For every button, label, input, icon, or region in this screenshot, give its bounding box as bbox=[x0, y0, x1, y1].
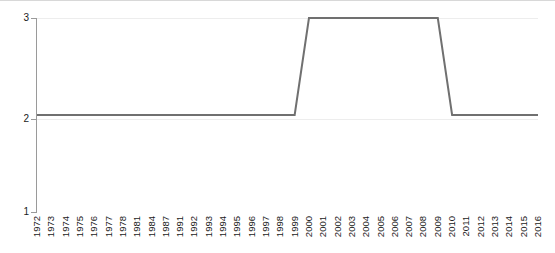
x-tick-label: 2015 bbox=[519, 216, 529, 237]
x-tick-label: 1977 bbox=[104, 216, 114, 237]
x-tick-label: 2010 bbox=[447, 216, 457, 237]
x-tick-label: 2005 bbox=[376, 216, 386, 237]
x-tick-label: 1975 bbox=[75, 216, 85, 237]
y-tick-label-2: 2 bbox=[3, 114, 29, 124]
top-divider bbox=[0, 0, 555, 1]
x-tick-label: 1993 bbox=[204, 216, 214, 237]
y-tick-label-1: 1 bbox=[3, 207, 29, 217]
x-tick-label: 2016 bbox=[533, 216, 543, 237]
x-tick-label: 1972 bbox=[32, 216, 42, 237]
x-tick-label: 1999 bbox=[290, 216, 300, 237]
x-tick-label: 1978 bbox=[118, 216, 128, 237]
x-tick-label: 1976 bbox=[89, 216, 99, 237]
x-tick-label: 1997 bbox=[261, 216, 271, 237]
x-tick-label: 2011 bbox=[461, 216, 471, 236]
x-tick-label: 1991 bbox=[175, 216, 185, 237]
x-tick-label: 1984 bbox=[147, 216, 157, 237]
x-tick-label: 2000 bbox=[304, 216, 314, 237]
x-axis-tick-labels: 1972197319741975197619771978198119841987… bbox=[37, 216, 538, 253]
line-chart: 3 2 1 1972197319741975197619771978198119… bbox=[0, 0, 555, 253]
x-tick-label: 2014 bbox=[504, 216, 514, 237]
x-tick-label: 2002 bbox=[333, 216, 343, 237]
data-series-line bbox=[37, 18, 538, 115]
x-tick-label: 1973 bbox=[46, 216, 56, 237]
x-tick-label: 1995 bbox=[232, 216, 242, 237]
y-tick-label-3: 3 bbox=[3, 13, 29, 23]
x-tick-label: 2006 bbox=[390, 216, 400, 237]
x-tick-label: 2008 bbox=[418, 216, 428, 237]
x-tick-label: 2012 bbox=[476, 216, 486, 237]
x-tick-label: 1974 bbox=[61, 216, 71, 237]
x-tick-label: 2013 bbox=[490, 216, 500, 237]
x-tick-label: 2004 bbox=[361, 216, 371, 237]
x-tick-label: 1981 bbox=[132, 216, 142, 237]
x-tick-label: 1998 bbox=[275, 216, 285, 237]
x-tick-label: 2001 bbox=[318, 216, 328, 237]
x-tick-label: 1992 bbox=[189, 216, 199, 237]
plot-area bbox=[37, 18, 538, 212]
x-tick-label: 2003 bbox=[347, 216, 357, 237]
x-tick-label: 1994 bbox=[218, 216, 228, 237]
y-axis-tick-labels: 3 2 1 bbox=[0, 0, 29, 253]
x-tick-label: 1987 bbox=[161, 216, 171, 237]
x-tick-label: 2009 bbox=[433, 216, 443, 237]
x-tick-label: 1996 bbox=[247, 216, 257, 237]
data-line-svg bbox=[37, 18, 538, 212]
x-tick-label: 2007 bbox=[404, 216, 414, 237]
y-tick-mark-1 bbox=[31, 212, 37, 213]
